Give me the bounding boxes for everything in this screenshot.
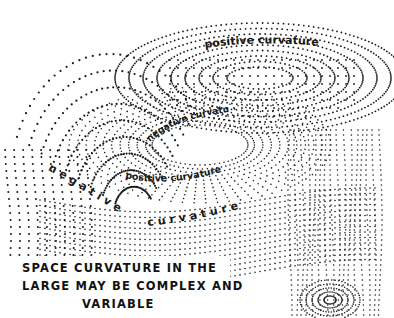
- caption-line-2: LARGE MAY BE COMPLEX AND: [22, 279, 244, 293]
- label-inner-negative-curvature: negative curvature: [0, 0, 230, 144]
- caption-line-3: VARIABLE: [82, 297, 155, 311]
- curvature-illustration: positive curvature negative curvature po…: [0, 0, 394, 318]
- caption-line-1: SPACE CURVATURE IN THE: [22, 261, 217, 275]
- label-curvature-word: curvature: [147, 198, 243, 229]
- dotted-surface-drawing: positive curvature negative curvature po…: [0, 0, 394, 318]
- label-top-positive-curvature: positive curvature: [204, 33, 320, 51]
- label-negative-word: negative: [46, 161, 127, 217]
